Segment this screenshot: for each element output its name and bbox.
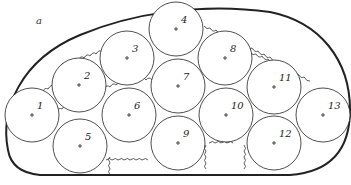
circle-13: 13 [296, 88, 350, 142]
circle-label: 6 [134, 100, 141, 111]
diagram-canvas: 12345678910111213 a [0, 0, 351, 185]
circle-label: 12 [279, 128, 292, 139]
circle-11: 11 [247, 60, 301, 114]
circles-group: 12345678910111213 [5, 2, 350, 173]
circle-label: 5 [85, 131, 91, 142]
circle-6: 6 [102, 88, 156, 142]
circle-4: 4 [149, 2, 203, 56]
circle-label: 11 [279, 72, 292, 83]
circle-7: 7 [151, 59, 205, 113]
circle-label: 8 [230, 43, 236, 54]
circle-2: 2 [52, 58, 106, 112]
panel-label: a [36, 15, 42, 26]
circle-label: 1 [37, 100, 43, 111]
circle-5: 5 [53, 119, 107, 173]
circle-10: 10 [199, 88, 253, 142]
circle-label: 7 [183, 71, 190, 82]
circle-label: 10 [231, 100, 244, 111]
circle-label: 9 [183, 128, 190, 139]
circle-1: 1 [5, 88, 59, 142]
circle-label: 4 [180, 14, 187, 25]
circle-label: 2 [83, 70, 90, 81]
circle-label: 3 [132, 43, 138, 54]
circle-label: 13 [328, 100, 341, 111]
circle-8: 8 [198, 31, 252, 85]
circle-9: 9 [151, 116, 205, 170]
circle-3: 3 [100, 31, 154, 85]
circle-12: 12 [247, 116, 301, 170]
